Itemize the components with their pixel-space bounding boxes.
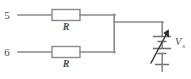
branch-bottom [18, 47, 115, 58]
circuit-diagram: 5 6 R R V s [0, 0, 191, 79]
source-label-subscript: s [183, 42, 186, 49]
resistor-bottom-label: R [62, 58, 70, 69]
resistor-top-body [52, 10, 80, 21]
terminal-5-label: 5 [4, 9, 10, 21]
resistor-top-label: R [62, 21, 70, 32]
resistor-bottom-body [52, 47, 80, 58]
terminal-6-label: 6 [4, 46, 10, 58]
variable-voltage-source-symbol [151, 29, 171, 71]
wire-bus-to-source [114, 22, 163, 36]
branch-top [18, 10, 115, 21]
